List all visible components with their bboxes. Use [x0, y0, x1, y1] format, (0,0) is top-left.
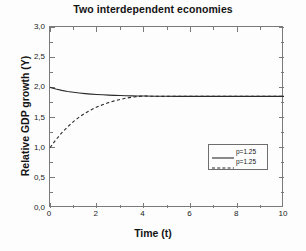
x-axis-title: Time (t): [0, 227, 306, 239]
y-tick-label: 3,0: [23, 22, 45, 31]
y-tick-label: 0,5: [23, 172, 45, 181]
plot-canvas: [50, 27, 284, 208]
y-axis-title-container: Relative GDP growth (Y): [0, 0, 20, 251]
legend-item: p=1.25: [212, 147, 264, 157]
chart-title: Two interdependent economies: [0, 3, 306, 15]
y-tick-label: 2,0: [23, 82, 45, 91]
x-tick-label: 0: [47, 209, 51, 218]
data-series: [50, 87, 284, 147]
y-axis-tick-labels: 0,00,51,01,52,02,53,0: [20, 26, 45, 207]
y-tick-label: 0,0: [23, 203, 45, 212]
y-tick-label: 1,5: [23, 112, 45, 121]
axis-ticks: [50, 27, 284, 208]
plot-area: [49, 26, 283, 207]
x-tick-label: 6: [187, 209, 191, 218]
x-tick-label: 8: [234, 209, 238, 218]
x-tick-label: 2: [94, 209, 98, 218]
legend-label: p=1.25: [236, 158, 256, 166]
solid-line-icon: [212, 148, 234, 156]
x-axis-tick-labels: 0246810: [49, 209, 283, 223]
x-tick-label: 10: [279, 209, 288, 218]
series-line-0: [50, 87, 284, 96]
series-line-1: [50, 96, 284, 148]
legend-label: p=1.25: [236, 148, 256, 156]
y-tick-label: 1,0: [23, 142, 45, 151]
legend-item: p=1.25: [212, 157, 264, 167]
chart-legend: p=1.25p=1.25: [208, 144, 268, 170]
dashed-line-icon: [212, 158, 234, 166]
y-tick-label: 2,5: [23, 52, 45, 61]
x-tick-label: 4: [140, 209, 144, 218]
chart-figure: Two interdependent economies Relative GD…: [0, 0, 306, 251]
